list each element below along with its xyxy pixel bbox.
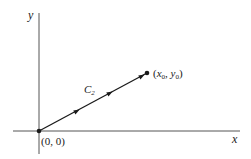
x-axis-label: x <box>232 133 237 145</box>
y-axis-label: y <box>28 9 33 21</box>
origin-point <box>37 129 42 134</box>
end-point-label: (x0, y0) <box>153 68 183 81</box>
curve-c2-segment <box>39 73 147 131</box>
paren-close: ) <box>179 67 183 79</box>
curve-label: C2 <box>84 84 95 97</box>
diagram-canvas <box>0 0 251 159</box>
origin-label: (0, 0) <box>41 136 65 147</box>
end-point <box>145 71 150 76</box>
direction-arrow-icon <box>106 90 113 97</box>
curve-subscript: 2 <box>91 89 95 97</box>
